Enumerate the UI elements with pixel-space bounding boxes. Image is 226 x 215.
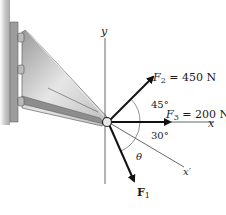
wall-support bbox=[0, 0, 18, 125]
f2-label: F2 = 450 N bbox=[152, 71, 216, 85]
force-f2-arrow bbox=[108, 77, 153, 122]
f3-label: F3 = 200 N bbox=[165, 108, 226, 122]
bracket bbox=[22, 30, 108, 126]
force-f1-arrow bbox=[108, 122, 134, 181]
bolt-icon bbox=[18, 97, 24, 106]
y-axis-label: y bbox=[100, 25, 108, 38]
x-prime-axis-label: x′ bbox=[183, 166, 192, 177]
bolt-icon bbox=[18, 33, 24, 42]
angle-theta-label: θ bbox=[136, 151, 142, 162]
arc-30 bbox=[135, 122, 140, 139]
angle-45-label: 45° bbox=[151, 99, 169, 110]
arc-theta bbox=[121, 139, 135, 151]
origin-pin bbox=[103, 118, 112, 127]
f1-label: F1 bbox=[137, 186, 150, 200]
angle-30-label: 30° bbox=[151, 130, 169, 141]
bolt-icon bbox=[18, 65, 24, 74]
arc-45 bbox=[131, 99, 140, 122]
x-prime-axis bbox=[108, 122, 184, 167]
force-diagram: y x x′ F2 = 450 N F3 = 200 N F1 45° 30° … bbox=[0, 0, 226, 215]
